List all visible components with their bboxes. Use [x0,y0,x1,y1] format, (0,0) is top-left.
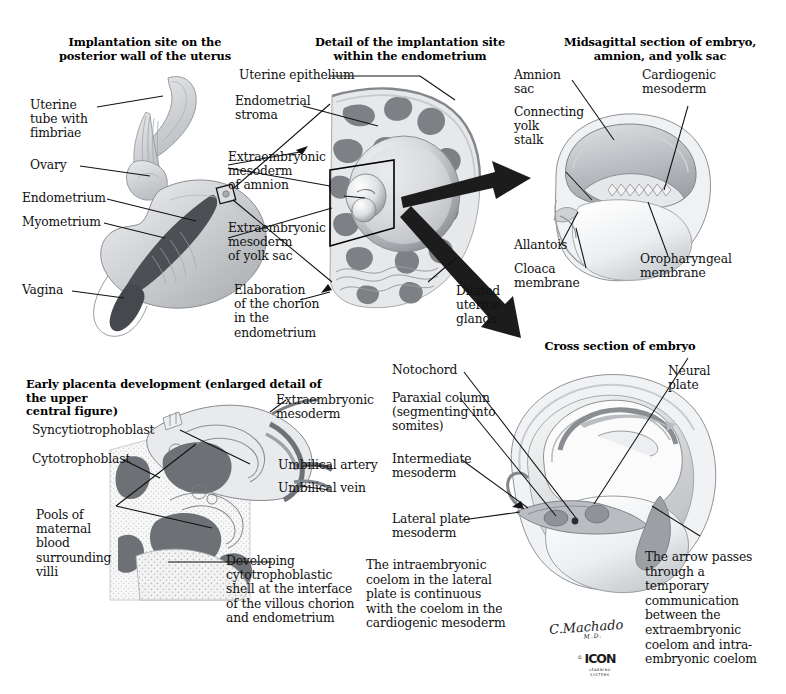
label-cytotrophoblast: Cytotrophoblast [32,452,162,466]
publisher-mark: ICON [585,653,616,665]
publisher-sub-line-1: LEARNING [568,668,632,672]
label-neural-plate: Neural plate [668,364,728,392]
label-extraembryonic-mesoderm: Extraembryonic mesoderm [276,393,386,421]
label-cloaca-membrane: Cloaca membrane [514,262,596,290]
panel-title-implantation-detail: Detail of the implantation site within t… [300,36,520,63]
label-connecting-yolk-stalk: Connecting yolk stalk [514,105,588,148]
illustration-plate: Implantation site on the posterior wall … [0,0,786,694]
label-pools-of-maternal-blood: Pools of maternal blood surrounding vill… [36,508,120,579]
copyright-icon: © [578,654,583,660]
panel-title-cross-section: Cross section of embryo [530,340,710,354]
label-ovary: Ovary [30,158,90,172]
label-dilated-uterine-glands: Dilated uterine glands [456,284,518,327]
label-extraembryonic-mesoderm-of-amnion: Extraembryonic mesoderm of amnion [228,150,332,193]
panel-title-midsagittal-embryo: Midsagittal section of embryo, amnion, a… [548,36,772,63]
note-arrow-temporary-communication: The arrow passes through a temporary com… [645,550,771,667]
label-lateral-plate-mesoderm: Lateral plate mesoderm [392,512,484,540]
publisher-logo: © ICON LEARNING SYSTEMS [568,648,632,677]
label-extraembryonic-mesoderm-of-yolk-sac: Extraembryonic mesoderm of yolk sac [228,221,332,264]
publisher-sub-line-2: SYSTEMS [568,673,632,677]
label-endometrium: Endometrium [22,191,118,205]
label-umbilical-artery: Umbilical artery [278,458,390,472]
label-myometrium: Myometrium [22,215,118,229]
panel-title-implantation-site: Implantation site on the posterior wall … [50,36,240,63]
label-amnion-sac: Amnion sac [514,68,584,96]
label-developing-cytotrophoblastic-shell: Developing cytotrophoblastic shell at th… [226,554,366,625]
label-notochord: Notochord [392,363,472,377]
label-paraxial-column: Paraxial column (segmenting into somites… [392,391,518,434]
label-allantois: Allantois [514,238,588,252]
label-uterine-epithelium: Uterine epithelium [239,68,359,82]
label-intermediate-mesoderm: Intermediate mesoderm [392,452,492,480]
label-syncytiotrophoblast: Syncytiotrophoblast [32,423,182,437]
label-cardiogenic-mesoderm: Cardiogenic mesoderm [642,68,726,96]
note-intraembryonic-coelom: The intraembryonic coelom in the lateral… [366,558,536,631]
label-elaboration-of-chorion: Elaboration of the chorion in the endome… [234,283,354,340]
label-vagina: Vagina [22,283,82,297]
label-endometrial-stroma: Endometrial stroma [235,94,325,122]
label-umbilical-vein: Umbilical vein [278,481,388,495]
label-uterine-tube-with-fimbriae: Uterine tube with fimbriae [30,98,104,141]
label-oropharyngeal-membrane: Oropharyngeal membrane [640,252,744,280]
